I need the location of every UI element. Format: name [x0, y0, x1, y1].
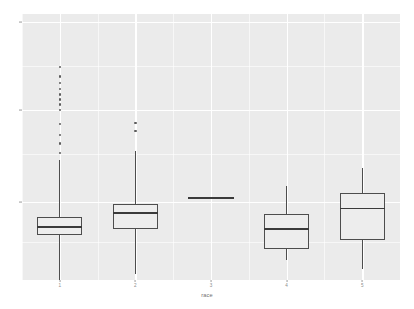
y-tick-mark-2: [19, 202, 21, 203]
x-tick-label-1: 1: [59, 283, 62, 288]
boxplot-group-5: [22, 14, 400, 280]
y-tick-mark-1: [19, 110, 21, 111]
whisker-upper-5: [362, 168, 363, 193]
x-tick-label-5: 5: [361, 283, 364, 288]
median-5: [340, 208, 385, 210]
x-tick-label-3: 3: [210, 283, 213, 288]
plot-panel: [22, 14, 400, 280]
x-tick-label-4: 4: [285, 283, 288, 288]
x-tick-label-2: 2: [134, 283, 137, 288]
box-5: [340, 193, 385, 240]
y-tick-mark-0: [19, 22, 21, 23]
boxplot-figure: 403020 12345 race: [0, 0, 414, 309]
x-axis-title: race: [0, 292, 414, 298]
whisker-lower-5: [362, 240, 363, 268]
